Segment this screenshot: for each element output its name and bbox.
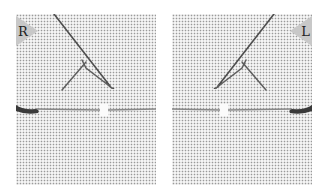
stitch-drawing-left xyxy=(172,14,312,185)
fabric-panel-left-handed: L xyxy=(172,14,312,185)
right-handed-label: R xyxy=(18,24,28,39)
fabric-panel-right-handed: R xyxy=(16,14,156,185)
stitch-illustration: R L xyxy=(0,0,325,195)
stitch-drawing-right xyxy=(16,14,156,185)
left-handed-label: L xyxy=(301,24,310,39)
